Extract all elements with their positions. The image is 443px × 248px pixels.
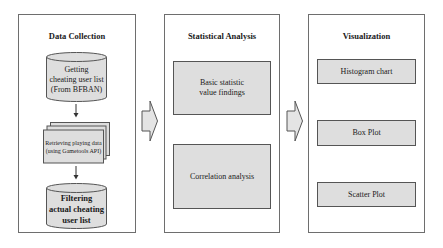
multi-document-retrieving-playing-data: Retrieving playing data (using Gametools… — [43, 122, 111, 164]
panel-title-visualization: Visualization — [309, 31, 424, 41]
block-arrow-right-icon — [141, 100, 159, 142]
cylinder-getting-cheating-user-list: Getting cheating user list (From BFBAN) — [46, 52, 107, 102]
panel-title-data-collection: Data Collection — [19, 31, 135, 41]
step-text-line: cheating user list — [46, 75, 107, 85]
box-scatter-plot: Scatter Plot — [317, 182, 416, 207]
step-text-line: Filtering — [46, 193, 107, 204]
panel-title-statistical-analysis: Statistical Analysis — [165, 31, 279, 41]
step-text-line: Correlation analysis — [190, 172, 254, 182]
box-correlation-analysis: Correlation analysis — [173, 144, 271, 209]
step-text-line: Box Plot — [352, 128, 380, 138]
step-text-line: (using Gametools API) — [43, 147, 104, 155]
step-text-line: Scatter Plot — [348, 190, 385, 200]
step-text-line: (From BFBAN) — [46, 85, 107, 95]
block-arrow-right-icon — [286, 100, 304, 142]
box-box-plot: Box Plot — [317, 120, 416, 146]
cylinder-filtering-actual-cheating-user-list: Filtering actual cheating user list — [46, 183, 107, 229]
step-text-line: Getting — [46, 65, 107, 75]
step-text-line: Basic statistic — [199, 78, 245, 88]
step-text-line: actual cheating — [46, 204, 107, 215]
step-text-line: user list — [46, 215, 107, 226]
arrow-down-icon — [73, 166, 79, 180]
arrow-down-icon — [73, 104, 79, 118]
box-basic-statistic-value-findings: Basic statistic value findings — [173, 61, 271, 115]
step-text-line: value findings — [199, 88, 245, 98]
step-text-line: Retrieving playing data — [43, 139, 104, 147]
step-text-line: Histogram chart — [341, 67, 393, 77]
box-histogram-chart: Histogram chart — [317, 59, 416, 84]
